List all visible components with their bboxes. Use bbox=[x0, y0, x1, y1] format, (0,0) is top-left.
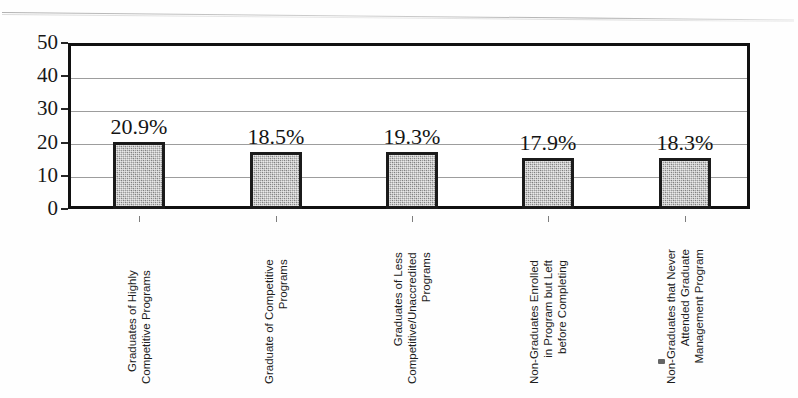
x-axis-label-rotated-text: Graduates of HighlyCompetitive Programs bbox=[125, 216, 153, 384]
y-tick-mark-10 bbox=[61, 175, 68, 177]
x-axis-label-4: Non-Graduates Enrolledin Program but Lef… bbox=[522, 216, 574, 386]
x-axis-label-line: Programs bbox=[419, 252, 433, 302]
bar[interactable] bbox=[659, 158, 711, 209]
x-axis-label-line: Management Program bbox=[692, 249, 706, 363]
bar-value-label: 17.9% bbox=[483, 132, 613, 154]
x-axis-label-line: Competitive/Unaccredited bbox=[405, 252, 419, 384]
x-axis-label-2: Graduate of CompetitivePrograms bbox=[250, 216, 302, 386]
bar-value-label: 19.3% bbox=[347, 126, 477, 148]
y-tick-mark-30 bbox=[61, 108, 68, 110]
x-axis-label-line: Competitive Programs bbox=[139, 270, 153, 384]
x-axis-label-line: before Completing bbox=[555, 260, 569, 354]
y-tick-mark-40 bbox=[61, 75, 68, 77]
x-axis-label-line: Programs bbox=[276, 259, 290, 309]
bar-value-label: 18.3% bbox=[620, 132, 750, 154]
x-axis-label-line: Non-Graduates that Never bbox=[664, 249, 678, 384]
x-axis-labels: Graduates of HighlyCompetitive ProgramsG… bbox=[68, 212, 750, 392]
bar[interactable] bbox=[250, 152, 302, 209]
x-axis-label-line: Non-Graduates Enrolled bbox=[527, 260, 541, 384]
bar-value-label: 18.5% bbox=[211, 126, 341, 148]
x-axis-label-line: in Program but Left bbox=[541, 260, 555, 358]
y-tick-mark-20 bbox=[61, 142, 68, 144]
y-tick-label-40: 40 bbox=[12, 65, 58, 86]
x-axis-label-line: Attended Graduate bbox=[678, 249, 692, 346]
bar[interactable] bbox=[113, 142, 165, 209]
y-tick-label-10: 10 bbox=[12, 165, 58, 186]
x-axis-label-5: Non-Graduates that NeverAttended Graduat… bbox=[659, 216, 711, 386]
x-axis-label-3: Graduates of LessCompetitive/Unaccredite… bbox=[386, 216, 438, 386]
x-axis-label-rotated-text: Graduate of CompetitivePrograms bbox=[262, 216, 290, 384]
chart-page: 50403020100 20.9%18.5%19.3%17.9%18.3% Gr… bbox=[0, 0, 798, 398]
y-tick-mark-50 bbox=[61, 42, 68, 44]
x-axis-label-rotated-text: Non-Graduates that NeverAttended Graduat… bbox=[664, 216, 706, 384]
y-tick-mark-0 bbox=[61, 208, 68, 210]
x-axis-label-1: Graduates of HighlyCompetitive Programs bbox=[113, 216, 165, 386]
bar[interactable] bbox=[522, 158, 574, 209]
y-tick-label-50: 50 bbox=[12, 32, 58, 53]
x-axis-label-line: Graduates of Less bbox=[391, 252, 405, 346]
bar-series: 20.9%18.5%19.3%17.9%18.3% bbox=[68, 43, 750, 209]
x-axis-label-line: Graduates of Highly bbox=[125, 270, 139, 372]
x-axis-label-line: Graduate of Competitive bbox=[262, 259, 276, 384]
y-tick-label-30: 30 bbox=[12, 98, 58, 119]
x-axis-label-rotated-text: Non-Graduates Enrolledin Program but Lef… bbox=[527, 216, 569, 384]
bar-value-label: 20.9% bbox=[74, 116, 204, 138]
y-tick-label-20: 20 bbox=[12, 132, 58, 153]
x-axis-label-rotated-text: Graduates of LessCompetitive/Unaccredite… bbox=[391, 216, 433, 384]
y-tick-label-0: 0 bbox=[12, 198, 58, 219]
bar[interactable] bbox=[386, 152, 438, 209]
